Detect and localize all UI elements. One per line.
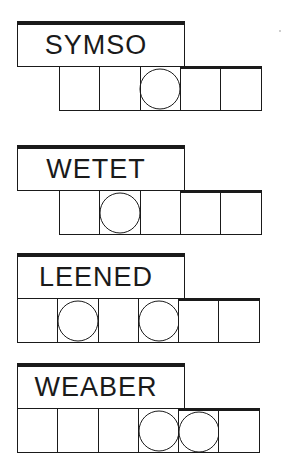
scrambled-word-box: SYMSO: [17, 21, 185, 67]
answer-cell-3[interactable]: [98, 298, 140, 343]
answer-cell-2[interactable]: [57, 298, 99, 343]
circle-marker-icon: [140, 68, 181, 109]
circle-marker-icon: [100, 192, 141, 233]
answer-cell-4[interactable]: [180, 190, 222, 235]
scrambled-word-box: WEABER: [17, 363, 185, 409]
answer-cell-4[interactable]: [138, 408, 180, 453]
answer-cell-1[interactable]: [17, 408, 59, 453]
answer-cell-6[interactable]: [218, 408, 260, 453]
answer-cells: [59, 66, 262, 111]
circle-marker-icon: [138, 410, 179, 451]
answer-cell-1[interactable]: [59, 66, 101, 111]
answer-cell-2[interactable]: [99, 190, 141, 235]
scrambled-word-box: LEENED: [17, 253, 185, 299]
answer-cells: [17, 298, 260, 343]
answer-cells: [59, 190, 262, 235]
answer-cell-2[interactable]: [57, 408, 99, 453]
answer-cell-3[interactable]: [140, 190, 182, 235]
answer-cell-6[interactable]: [218, 298, 260, 343]
answer-cell-5[interactable]: [178, 408, 220, 453]
answer-cell-4[interactable]: [138, 298, 180, 343]
scrambled-word: WEABER: [34, 374, 167, 401]
puzzle-1: SYMSO: [0, 21, 290, 116]
circle-marker-icon: [58, 300, 99, 341]
answer-cell-3[interactable]: [98, 408, 140, 453]
scrambled-word: WETET: [46, 156, 156, 183]
puzzle-3: LEENED: [0, 253, 290, 348]
answer-cell-5[interactable]: [220, 190, 262, 235]
circle-marker-icon: [179, 411, 220, 452]
answer-cell-1[interactable]: [59, 190, 101, 235]
circle-marker-icon: [138, 300, 179, 341]
answer-cell-2[interactable]: [99, 66, 141, 111]
answer-cell-4[interactable]: [180, 66, 222, 111]
answer-cell-3[interactable]: [140, 66, 182, 111]
answer-cell-5[interactable]: [178, 298, 220, 343]
scrambled-word: LEENED: [39, 264, 163, 291]
answer-cell-5[interactable]: [220, 66, 262, 111]
puzzle-4: WEABER: [0, 363, 290, 458]
scrambled-word: SYMSO: [45, 32, 158, 59]
puzzle-2: WETET: [0, 145, 290, 240]
answer-cell-1[interactable]: [17, 298, 59, 343]
scrambled-word-box: WETET: [17, 145, 185, 191]
answer-cells: [17, 408, 260, 453]
